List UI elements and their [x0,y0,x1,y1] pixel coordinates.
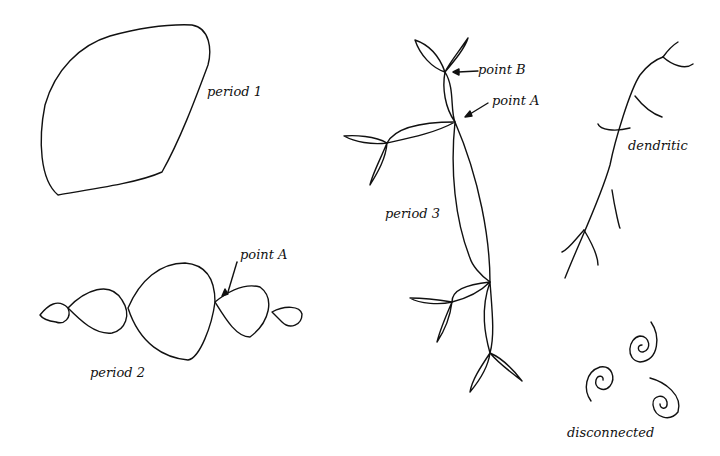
label-disconnected: disconnected [567,425,654,440]
period2-shape [40,262,302,360]
dendritic-shape [562,42,693,278]
figure-drawings [0,0,720,456]
disconnected-shape [586,322,678,418]
label-period3-point-a: point A [492,93,539,108]
label-period3: period 3 [385,206,440,221]
period1-shape [41,25,209,195]
label-dendritic: dendritic [628,138,688,153]
label-period1: period 1 [207,84,262,99]
label-period2-point-a: point A [240,247,287,262]
julia-set-figure: period 1 point A period 2 point B point … [0,0,720,456]
label-period3-point-b: point B [478,62,526,77]
label-period2: period 2 [90,365,145,380]
